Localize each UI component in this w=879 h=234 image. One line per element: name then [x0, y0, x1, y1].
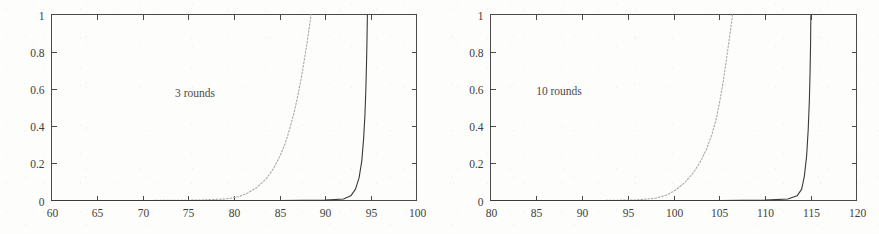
y-tick-label: 1 [39, 10, 45, 22]
x-tick-label: 95 [623, 207, 635, 219]
chart-panel-3-rounds: 6065707580859095100 00.20.40.60.81 3 rou… [0, 0, 440, 234]
y-tick-label: 1 [478, 10, 484, 22]
chart-annotation-label: 10 rounds [536, 85, 582, 97]
x-tick-label: 80 [486, 207, 498, 219]
curve-solid [491, 15, 811, 201]
x-tick-label: 100 [666, 207, 684, 219]
y-axis-labels: 00.20.40.60.81 [469, 10, 484, 208]
x-tick-label: 75 [183, 207, 195, 219]
y-tick-label: 0 [478, 196, 484, 208]
y-tick-label: 0.8 [469, 47, 484, 59]
plot-frame [52, 15, 417, 201]
x-tick-label: 100 [409, 207, 427, 219]
tick-marks [52, 15, 417, 201]
x-axis-labels: 6065707580859095100 [47, 207, 427, 219]
x-tick-label: 65 [92, 207, 104, 219]
curve-solid [52, 15, 368, 201]
curves [491, 15, 811, 201]
curve-dotted [491, 15, 733, 201]
x-tick-label: 95 [366, 207, 378, 219]
curves [52, 15, 368, 201]
x-tick-label: 70 [138, 207, 150, 219]
x-tick-label: 90 [320, 207, 332, 219]
y-tick-label: 0.4 [469, 121, 484, 133]
y-tick-label: 0.6 [469, 84, 484, 96]
chart-annotation-label: 3 rounds [175, 87, 215, 99]
x-tick-label: 85 [275, 207, 287, 219]
y-tick-label: 0.2 [30, 158, 45, 170]
figure-container: 6065707580859095100 00.20.40.60.81 3 rou… [0, 0, 879, 234]
y-tick-label: 0.8 [30, 47, 45, 59]
chart-panel-10-rounds: 80859095100105110115120 00.20.40.60.81 1… [440, 0, 879, 234]
chart-svg-right: 80859095100105110115120 00.20.40.60.81 1… [440, 0, 879, 234]
curve-dotted [52, 15, 312, 201]
x-tick-label: 105 [711, 207, 729, 219]
x-tick-label: 110 [757, 207, 774, 219]
y-tick-label: 0.2 [469, 158, 484, 170]
x-tick-label: 115 [803, 207, 820, 219]
x-axis-labels: 80859095100105110115120 [486, 207, 867, 219]
y-tick-label: 0.6 [30, 84, 45, 96]
x-tick-label: 80 [229, 207, 241, 219]
chart-svg-left: 6065707580859095100 00.20.40.60.81 3 rou… [0, 0, 440, 234]
y-tick-label: 0.4 [30, 121, 45, 133]
y-axis-labels: 00.20.40.60.81 [30, 10, 45, 208]
tick-marks [491, 15, 857, 201]
x-tick-label: 90 [577, 207, 589, 219]
plot-frame [491, 15, 857, 201]
y-tick-label: 0 [39, 196, 45, 208]
x-tick-label: 60 [47, 207, 59, 219]
x-tick-label: 85 [531, 207, 543, 219]
x-tick-label: 120 [849, 207, 867, 219]
